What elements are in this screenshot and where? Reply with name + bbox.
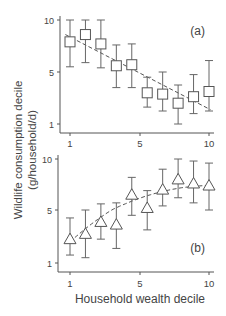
data-point-triangle [141,202,153,213]
data-point-square [204,87,214,97]
x-axis-label: Household wealth decile [75,292,205,306]
ytick-label: 5 [47,206,52,216]
data-point-square [142,88,152,98]
data-point-square [189,92,199,102]
xtick-label: 5 [137,278,142,289]
data-point-triangle [172,173,184,184]
xtick-label: 10 [204,278,215,289]
y-axis-label-line2: (g/household/d) [26,110,38,190]
data-point-triangle [95,216,107,227]
panel-b: 10 5 1 1 5 10 (b) [42,155,215,289]
panel-a: 10 5 1 1 5 10 (a) [44,16,214,149]
ytick-label: 1 [47,259,52,269]
xtick-label: 5 [137,138,142,149]
data-point-square [173,98,183,108]
xtick-label: 1 [67,138,72,149]
y-ticks-b: 10 5 1 [42,155,58,269]
figure: Wildlife consumption decile (g/household… [0,0,226,316]
error-bar [81,20,89,63]
panel-label-b: (b) [190,241,205,255]
xtick-label: 10 [204,138,215,149]
data-point-triangle [157,184,169,195]
trend-curve [70,186,212,242]
ytick-label: 5 [49,68,54,78]
x-ticks-b: 1 5 10 [67,272,214,289]
data-point-square [80,30,90,40]
panel-label-a: (a) [190,24,205,38]
data-point-triangle [188,177,200,188]
ytick-label: 10 [42,155,52,165]
error-bar [205,61,213,111]
x-ticks-a: 1 5 10 [67,133,214,149]
data-point-triangle [79,228,91,239]
data-point-square [127,60,137,70]
data-point-square [158,89,168,99]
y-ticks-a: 10 5 1 [44,16,60,130]
data-point-square [111,61,121,71]
data-point-triangle [64,233,76,244]
y-axis-label: Wildlife consumption decile (g/household… [12,81,38,220]
data-point-triangle [203,180,215,191]
data-point-triangle [110,219,122,230]
ytick-label: 10 [44,16,54,26]
ytick-label: 1 [49,120,54,130]
y-axis-label-line1: Wildlife consumption decile [12,81,24,220]
data-point-triangle [126,189,138,200]
data-point-square [96,39,106,49]
xtick-label: 1 [67,278,72,289]
data-point-square [65,37,75,47]
